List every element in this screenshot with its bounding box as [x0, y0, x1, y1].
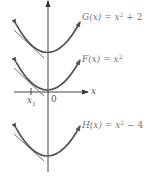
tangent-line-h [14, 134, 44, 161]
tangent-line-g [14, 30, 44, 58]
label-h-fn: H(x) = x [82, 120, 120, 130]
label-g-fn: G(x) = x [82, 12, 120, 22]
label-f-fn: F(x) = x [82, 54, 119, 64]
label-f: F(x) = x2 [82, 55, 123, 64]
parabola-family-diagram [0, 0, 148, 176]
x-axis-label: x [91, 87, 96, 96]
label-f-exp: 2 [119, 53, 123, 60]
label-h: H(x) = x2 − 4 [82, 121, 143, 130]
label-h-rest: − 4 [124, 120, 143, 130]
x1-label: x1 [27, 96, 36, 107]
label-g: G(x) = x2 + 2 [82, 13, 142, 22]
x1-label-sub: 1 [32, 100, 36, 107]
origin-label: 0 [51, 95, 57, 104]
label-g-rest: + 2 [123, 12, 142, 22]
